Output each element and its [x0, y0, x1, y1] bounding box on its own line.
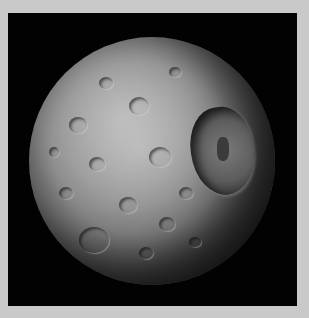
crater	[49, 147, 59, 157]
crater	[159, 217, 175, 231]
crater	[189, 237, 201, 247]
crater	[89, 157, 105, 171]
crater	[129, 97, 149, 115]
crater	[139, 247, 153, 259]
moon	[29, 37, 275, 285]
crater	[149, 147, 171, 167]
crater	[79, 227, 109, 253]
crater-central-peak	[217, 137, 229, 161]
space-background	[8, 13, 297, 306]
crater	[99, 77, 113, 89]
crater	[69, 117, 87, 133]
crater	[59, 187, 73, 199]
crater	[169, 67, 181, 77]
crater	[179, 187, 193, 199]
crater	[119, 197, 137, 213]
